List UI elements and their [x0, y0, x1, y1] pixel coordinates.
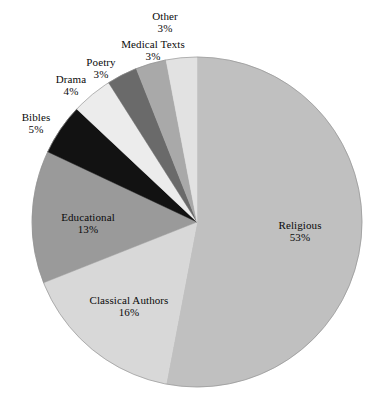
pie-chart-canvas — [0, 0, 377, 398]
pie-label-poetry-value: 3% — [86, 68, 115, 80]
pie-label-educational-name: Educational — [61, 211, 115, 223]
pie-label-poetry: Poetry 3% — [86, 56, 115, 81]
pie-label-medical-texts: Medical Texts 3% — [121, 38, 185, 63]
pie-label-classical-authors-name: Classical Authors — [89, 294, 168, 306]
pie-label-bibles-value: 5% — [22, 123, 51, 135]
pie-label-drama-name: Drama — [56, 73, 86, 85]
pie-label-medical-texts-value: 3% — [121, 50, 185, 62]
pie-chart: Religious 53% Classical Authors 16% Educ… — [0, 0, 377, 398]
pie-label-drama: Drama 4% — [56, 73, 86, 98]
pie-label-educational: Educational 13% — [61, 211, 115, 236]
pie-label-medical-texts-name: Medical Texts — [121, 38, 185, 50]
pie-label-other-name: Other — [152, 10, 178, 22]
pie-label-poetry-name: Poetry — [86, 56, 115, 68]
pie-label-educational-value: 13% — [61, 223, 115, 235]
pie-label-bibles-name: Bibles — [22, 111, 51, 123]
pie-label-drama-value: 4% — [56, 85, 86, 97]
pie-label-classical-authors-value: 16% — [89, 306, 168, 318]
pie-label-bibles: Bibles 5% — [22, 111, 51, 136]
pie-label-classical-authors: Classical Authors 16% — [89, 294, 168, 319]
pie-label-other-value: 3% — [152, 22, 178, 34]
pie-label-religious: Religious 53% — [278, 219, 321, 244]
pie-label-religious-value: 53% — [278, 231, 321, 243]
pie-label-other: Other 3% — [152, 10, 178, 35]
pie-label-religious-name: Religious — [278, 219, 321, 231]
